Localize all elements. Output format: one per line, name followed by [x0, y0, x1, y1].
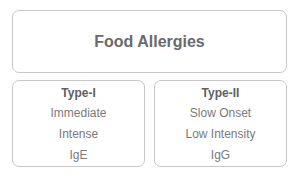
type-ii-item: IgG	[211, 145, 230, 166]
type-i-node: Type-I Immediate Intense IgE	[12, 80, 145, 167]
type-ii-title: Type-II	[202, 84, 240, 103]
type-i-item: IgE	[69, 145, 87, 166]
type-i-item: Intense	[59, 124, 98, 145]
root-node-label: Food Allergies	[94, 33, 205, 51]
type-ii-item: Slow Onset	[190, 103, 251, 124]
type-i-item: Immediate	[50, 103, 106, 124]
type-ii-node: Type-II Slow Onset Low Intensity IgG	[154, 80, 287, 167]
type-ii-item: Low Intensity	[185, 124, 255, 145]
root-node-food-allergies: Food Allergies	[12, 10, 287, 73]
type-i-title: Type-I	[61, 84, 95, 103]
